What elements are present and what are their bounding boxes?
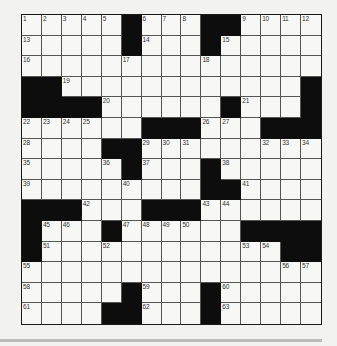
grid-cell[interactable] [162,283,182,304]
grid-cell[interactable] [102,118,122,139]
grid-cell[interactable] [241,139,261,160]
grid-cell[interactable]: 34 [301,139,321,160]
grid-cell[interactable] [82,303,102,324]
grid-cell[interactable] [102,77,122,98]
grid-cell[interactable]: 63 [221,303,241,324]
grid-cell[interactable] [181,262,201,283]
grid-cell[interactable] [122,262,142,283]
grid-cell[interactable] [241,56,261,77]
grid-cell[interactable]: 6 [142,15,162,36]
grid-cell[interactable]: 57 [301,262,321,283]
grid-cell[interactable] [261,262,281,283]
grid-cell[interactable]: 30 [162,139,182,160]
grid-cell[interactable] [181,283,201,304]
grid-cell[interactable] [181,303,201,324]
grid-cell[interactable] [162,242,182,263]
grid-cell[interactable]: 47 [122,221,142,242]
grid-cell[interactable] [181,56,201,77]
grid-cell[interactable] [261,180,281,201]
grid-cell[interactable] [142,56,162,77]
grid-cell[interactable] [261,159,281,180]
grid-cell[interactable]: 7 [162,15,182,36]
grid-cell[interactable] [42,36,62,57]
grid-cell[interactable]: 21 [241,97,261,118]
grid-cell[interactable] [82,56,102,77]
grid-cell[interactable]: 8 [181,15,201,36]
grid-cell[interactable] [62,139,82,160]
grid-cell[interactable] [181,159,201,180]
grid-cell[interactable] [62,36,82,57]
grid-cell[interactable]: 43 [201,200,221,221]
grid-cell[interactable] [62,180,82,201]
grid-cell[interactable] [42,303,62,324]
grid-cell[interactable]: 41 [241,180,261,201]
grid-cell[interactable] [42,159,62,180]
grid-cell[interactable] [301,283,321,304]
grid-cell[interactable]: 23 [42,118,62,139]
grid-cell[interactable]: 29 [142,139,162,160]
grid-cell[interactable] [82,36,102,57]
grid-cell[interactable] [42,180,62,201]
grid-cell[interactable] [122,97,142,118]
grid-cell[interactable] [162,36,182,57]
grid-cell[interactable]: 44 [221,200,241,221]
grid-cell[interactable] [221,77,241,98]
grid-cell[interactable] [241,159,261,180]
grid-cell[interactable]: 14 [142,36,162,57]
grid-cell[interactable] [181,97,201,118]
grid-cell[interactable]: 39 [22,180,42,201]
grid-cell[interactable] [221,242,241,263]
grid-cell[interactable] [181,36,201,57]
grid-cell[interactable] [162,180,182,201]
grid-cell[interactable] [162,56,182,77]
grid-cell[interactable] [142,242,162,263]
grid-cell[interactable] [221,262,241,283]
grid-cell[interactable]: 55 [22,262,42,283]
grid-cell[interactable] [102,56,122,77]
grid-cell[interactable] [82,221,102,242]
grid-cell[interactable] [301,159,321,180]
grid-cell[interactable] [281,77,301,98]
grid-cell[interactable]: 9 [241,15,261,36]
grid-cell[interactable]: 61 [22,303,42,324]
grid-cell[interactable] [281,36,301,57]
grid-cell[interactable]: 10 [261,15,281,36]
grid-cell[interactable] [102,36,122,57]
grid-cell[interactable] [261,97,281,118]
grid-cell[interactable] [122,200,142,221]
grid-cell[interactable]: 15 [221,36,241,57]
grid-cell[interactable] [42,283,62,304]
grid-cell[interactable]: 20 [102,97,122,118]
grid-cell[interactable]: 38 [221,159,241,180]
grid-cell[interactable]: 25 [82,118,102,139]
grid-cell[interactable]: 36 [102,159,122,180]
grid-cell[interactable]: 48 [142,221,162,242]
grid-cell[interactable] [102,180,122,201]
grid-cell[interactable] [261,36,281,57]
grid-cell[interactable]: 37 [142,159,162,180]
grid-cell[interactable]: 46 [62,221,82,242]
grid-cell[interactable] [281,159,301,180]
grid-cell[interactable]: 3 [62,15,82,36]
grid-cell[interactable] [62,56,82,77]
grid-cell[interactable]: 45 [42,221,62,242]
grid-cell[interactable]: 31 [181,139,201,160]
grid-cell[interactable] [261,200,281,221]
grid-cell[interactable]: 52 [102,242,122,263]
grid-cell[interactable]: 42 [82,200,102,221]
grid-cell[interactable] [261,77,281,98]
grid-cell[interactable]: 40 [122,180,142,201]
grid-cell[interactable] [281,56,301,77]
grid-cell[interactable]: 19 [62,77,82,98]
grid-cell[interactable]: 12 [301,15,321,36]
grid-cell[interactable] [42,56,62,77]
grid-cell[interactable] [162,97,182,118]
grid-cell[interactable] [301,36,321,57]
grid-cell[interactable] [241,262,261,283]
grid-cell[interactable] [162,159,182,180]
grid-cell[interactable] [221,56,241,77]
grid-cell[interactable]: 59 [142,283,162,304]
grid-cell[interactable] [281,97,301,118]
grid-cell[interactable] [62,242,82,263]
grid-cell[interactable] [122,118,142,139]
